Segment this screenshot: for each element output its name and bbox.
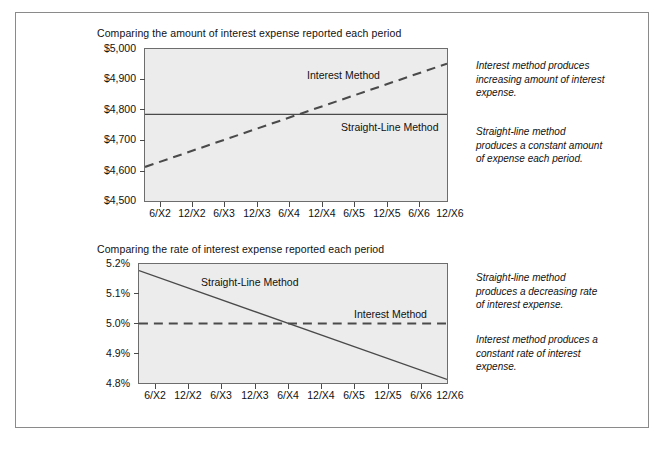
chart-amount-ytick-mark-3: [140, 140, 145, 141]
chart-rate-label-straight-line: Straight-Line Method: [201, 276, 298, 288]
chart-rate-xtick-2: 6/X3: [210, 389, 232, 401]
chart-rate-title: Comparing the rate of interest expense r…: [97, 243, 384, 255]
chart-amount-ytick-1: $4,900: [68, 72, 136, 84]
chart-rate-annotation-2: Interest method produces a constant rate…: [476, 333, 606, 374]
chart-rate: Comparing the rate of interest expense r…: [16, 235, 650, 429]
chart-amount-xtick-2: 6/X3: [213, 207, 235, 219]
chart-amount-ytick-mark-4: [140, 171, 145, 172]
chart-amount-annotation-1: Interest method produces increasing amou…: [476, 59, 606, 100]
chart-amount-label-straight-line: Straight-Line Method: [341, 121, 438, 133]
chart-rate-ytick-2: 5.0%: [68, 317, 130, 329]
chart-rate-ytick-mark-2: [134, 323, 139, 324]
chart-amount-annotation-2: Straight-line method produces a constant…: [476, 125, 606, 166]
chart-amount-ytick-0: $5,000: [68, 42, 136, 54]
chart-amount-xtick-4: 6/X4: [278, 207, 300, 219]
chart-amount-ytick-2: $4,800: [68, 103, 136, 115]
chart-rate-xtick-9: 12/X6: [436, 389, 463, 401]
chart-rate-xtick-1: 12/X2: [174, 389, 201, 401]
chart-rate-xtick-3: 12/X3: [241, 389, 268, 401]
chart-rate-plot-area: Straight-Line Method Interest Method: [138, 263, 448, 384]
chart-amount-xtick-0: 6/X2: [149, 207, 171, 219]
chart-amount-title: Comparing the amount of interest expense…: [97, 27, 401, 39]
chart-rate-xtick-8: 6/X6: [410, 389, 432, 401]
series-interest-amount: [145, 64, 447, 167]
chart-amount-xtick-5: 12/X4: [308, 207, 335, 219]
chart-rate-ytick-3: 4.9%: [68, 347, 130, 359]
chart-amount-ytick-3: $4,700: [68, 133, 136, 145]
chart-rate-annotation-1: Straight-line method produces a decreasi…: [476, 271, 606, 312]
figure-frame: Comparing the amount of interest expense…: [15, 12, 649, 428]
chart-rate-ytick-mark-1: [134, 293, 139, 294]
chart-amount-plot-area: Interest Method Straight-Line Method: [144, 48, 448, 202]
chart-amount-ytick-mark-2: [140, 109, 145, 110]
chart-rate-ytick-mark-3: [134, 353, 139, 354]
chart-amount-ytick-mark-1: [140, 79, 145, 80]
chart-amount-xtick-7: 12/X5: [373, 207, 400, 219]
chart-rate-label-interest: Interest Method: [354, 308, 427, 320]
chart-rate-xtick-6: 6/X5: [343, 389, 365, 401]
chart-amount-label-interest: Interest Method: [307, 69, 380, 81]
chart-amount-xtick-9: 12/X6: [436, 207, 463, 219]
chart-amount-xtick-1: 12/X2: [178, 207, 205, 219]
chart-amount: Comparing the amount of interest expense…: [16, 13, 650, 225]
chart-rate-xtick-0: 6/X2: [144, 389, 166, 401]
chart-rate-xtick-7: 12/X5: [374, 389, 401, 401]
chart-rate-ytick-0: 5.2%: [68, 257, 130, 269]
chart-rate-ytick-1: 5.1%: [68, 287, 130, 299]
chart-amount-xtick-8: 6/X6: [408, 207, 430, 219]
chart-amount-ytick-5: $4,500: [68, 194, 136, 206]
chart-rate-xtick-4: 6/X4: [277, 389, 299, 401]
chart-amount-xtick-6: 6/X5: [343, 207, 365, 219]
chart-amount-xtick-3: 12/X3: [243, 207, 270, 219]
chart-rate-xtick-5: 12/X4: [307, 389, 334, 401]
chart-rate-ytick-4: 4.8%: [68, 377, 130, 389]
chart-amount-ytick-4: $4,600: [68, 164, 136, 176]
